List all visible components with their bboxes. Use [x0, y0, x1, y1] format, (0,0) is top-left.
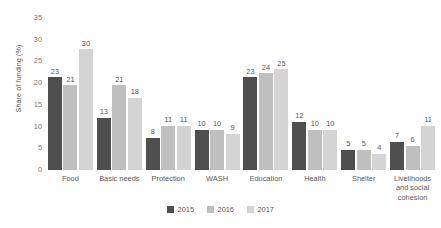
- bar-value-label: 10: [197, 120, 205, 127]
- bar-2017[interactable]: [274, 69, 288, 170]
- x-axis-label: Livelihoods and social cohesion: [388, 174, 437, 202]
- bar-value-label: 10: [311, 120, 319, 127]
- bar-value-label: 10: [326, 120, 334, 127]
- bar-item: 5: [341, 18, 355, 170]
- legend-swatch-icon: [207, 206, 214, 213]
- bar-value-label: 11: [424, 116, 432, 123]
- bar-2016[interactable]: [210, 130, 224, 170]
- bar-value-label: 13: [100, 108, 108, 115]
- y-axis-tick-30: 30: [22, 36, 42, 43]
- y-axis-tick-35: 35: [22, 14, 42, 21]
- bar-2016[interactable]: [308, 130, 322, 170]
- bar-item: 30: [79, 18, 93, 170]
- bar-item: 8: [146, 18, 160, 170]
- x-axis-label: Basic needs: [95, 174, 144, 202]
- clipped-title-artifact: [0, 0, 441, 4]
- bar-item: 11: [177, 18, 191, 170]
- legend-label: 2015: [178, 206, 194, 213]
- bar-value-label: 18: [131, 88, 139, 95]
- legend-label: 2017: [257, 206, 273, 213]
- bar-group: 554: [339, 18, 388, 170]
- chart-legend: 201520162017: [0, 206, 441, 213]
- bar-2016[interactable]: [259, 73, 273, 170]
- bar-2015[interactable]: [146, 138, 160, 170]
- legend-label: 2016: [218, 206, 234, 213]
- bar-item: 13: [97, 18, 111, 170]
- bar-value-label: 30: [82, 40, 90, 47]
- bar-item: 21: [63, 18, 77, 170]
- plot-area: 2321301321188111110109232425121010554761…: [46, 18, 437, 170]
- bar-value-label: 11: [164, 116, 172, 123]
- x-axis-label: WASH: [193, 174, 242, 202]
- y-axis-tick-15: 15: [22, 101, 42, 108]
- bar-2015[interactable]: [97, 118, 111, 170]
- bar-2017[interactable]: [226, 134, 240, 170]
- bar-item: 4: [372, 18, 386, 170]
- bar-item: 18: [128, 18, 142, 170]
- bar-chart: Share of funding (%) 35302520151050 2321…: [0, 0, 441, 228]
- bar-value-label: 21: [66, 76, 74, 83]
- y-axis-tick-20: 20: [22, 79, 42, 86]
- bar-value-label: 11: [180, 116, 188, 123]
- legend-item-2015[interactable]: 2015: [167, 206, 194, 213]
- bar-2017[interactable]: [372, 154, 386, 170]
- bar-value-label: 5: [346, 140, 350, 147]
- bar-value-label: 21: [115, 76, 123, 83]
- x-axis-label: Education: [242, 174, 291, 202]
- bar-item: 5: [357, 18, 371, 170]
- bar-value-label: 8: [151, 128, 155, 135]
- bar-2015[interactable]: [195, 130, 209, 170]
- bar-2017[interactable]: [128, 98, 142, 171]
- bar-value-label: 25: [277, 60, 285, 67]
- bar-group: 121010: [290, 18, 339, 170]
- legend-item-2017[interactable]: 2017: [247, 206, 274, 213]
- x-axis-label: Health: [290, 174, 339, 202]
- bar-2015[interactable]: [243, 77, 257, 170]
- bar-item: 10: [195, 18, 209, 170]
- bar-value-label: 12: [295, 112, 303, 119]
- bar-item: 12: [292, 18, 306, 170]
- bar-value-label: 4: [377, 144, 381, 151]
- bar-2015[interactable]: [292, 122, 306, 170]
- bar-value-label: 23: [246, 68, 254, 75]
- bar-2017[interactable]: [79, 49, 93, 170]
- legend-swatch-icon: [167, 206, 174, 213]
- legend-item-2016[interactable]: 2016: [207, 206, 234, 213]
- bar-value-label: 6: [411, 136, 415, 143]
- bar-item: 21: [112, 18, 126, 170]
- bar-2017[interactable]: [421, 126, 435, 170]
- bar-item: 11: [421, 18, 435, 170]
- bar-item: 6: [406, 18, 420, 170]
- bar-group: 232425: [242, 18, 291, 170]
- bar-2016[interactable]: [161, 126, 175, 170]
- bar-value-label: 10: [213, 120, 221, 127]
- x-axis-label: Protection: [144, 174, 193, 202]
- y-axis-tick-5: 5: [22, 145, 42, 152]
- bar-group: 7611: [388, 18, 437, 170]
- y-axis-ticks: 35302520151050: [22, 18, 42, 170]
- bar-2017[interactable]: [177, 126, 191, 170]
- bar-2016[interactable]: [112, 85, 126, 170]
- bar-item: 11: [161, 18, 175, 170]
- legend-swatch-icon: [247, 206, 254, 213]
- bar-2015[interactable]: [48, 77, 62, 170]
- bar-value-label: 24: [262, 64, 270, 71]
- y-axis-tick-25: 25: [22, 58, 42, 65]
- bar-value-label: 5: [362, 140, 366, 147]
- bar-item: 10: [323, 18, 337, 170]
- x-axis-label: Food: [46, 174, 95, 202]
- x-axis-category-labels: FoodBasic needsProtectionWASHEducationHe…: [46, 174, 437, 202]
- bar-2015[interactable]: [390, 142, 404, 170]
- bar-item: 24: [259, 18, 273, 170]
- y-axis-tick-10: 10: [22, 123, 42, 130]
- x-axis-label: Shelter: [339, 174, 388, 202]
- bar-value-label: 23: [51, 68, 59, 75]
- bar-2015[interactable]: [341, 150, 355, 170]
- y-axis-tick-0: 0: [22, 166, 42, 173]
- bar-2016[interactable]: [63, 85, 77, 170]
- bar-2017[interactable]: [323, 130, 337, 170]
- bar-group: 81111: [144, 18, 193, 170]
- bar-2016[interactable]: [406, 146, 420, 170]
- bar-2016[interactable]: [357, 150, 371, 170]
- bar-item: 25: [274, 18, 288, 170]
